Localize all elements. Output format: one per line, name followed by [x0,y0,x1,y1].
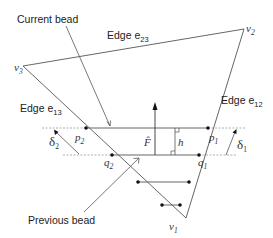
current-bead-pointer-line [66,26,110,126]
bead-dot [178,203,182,207]
label-force: F̂ [143,136,151,148]
label-current-bead: Current bead [17,13,78,25]
label-v3: v3 [14,61,23,76]
label-edge-e12: Edge e12 [221,94,263,109]
label-height: h [178,136,184,148]
edge-e13-line [23,66,186,218]
label-edge-e13: Edge e13 [20,102,62,117]
label-v2: v2 [246,22,255,37]
label-v1: v1 [169,220,178,235]
bead-dot [160,203,164,207]
point-p1 [206,126,210,130]
bead-dot [187,180,191,184]
point-p2 [84,126,88,130]
label-delta1: δ1 [237,137,247,154]
delta1-arrow-head-icon [233,129,237,134]
label-edge-e23: Edge e23 [107,29,149,44]
label-p1: p1 [208,131,218,146]
point-q2 [110,153,114,157]
right-angle-mark-top [175,128,179,132]
bead-dot [136,180,140,184]
label-p2: p2 [74,131,85,146]
right-angle-mark-bottom [171,151,175,155]
delta1-arrow-shaft [226,132,235,155]
label-q1: q1 [198,156,207,171]
force-arrow-head-icon [153,102,158,110]
triangle-bead-diagram: Current bead Previous bead Edge e23 Edge… [0,0,273,238]
label-previous-bead: Previous bead [28,214,95,226]
edge-e12-line [186,29,244,218]
label-q2: q2 [104,156,114,171]
label-delta2: δ2 [49,134,59,151]
